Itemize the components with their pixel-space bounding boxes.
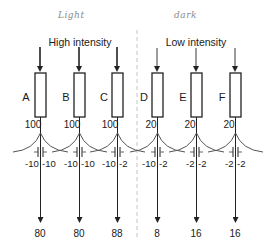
input-value-f: 20 [223, 119, 234, 130]
coupling-right-f: -2 [237, 158, 245, 169]
receptor-box-f [230, 73, 241, 117]
receptor-box-a [35, 73, 46, 117]
cell-label-a: A [22, 91, 29, 103]
cell-label-b: B [62, 91, 69, 103]
coupling-left-e: -2 [186, 158, 194, 169]
output-value-f: 16 [229, 228, 240, 239]
handwritten-light-label: Light [58, 10, 85, 20]
low-intensity-title: Low intensity [166, 36, 227, 48]
cell-label-e: E [179, 91, 186, 103]
coupling-left-a: -10 [25, 158, 39, 169]
high-intensity-title: High intensity [48, 36, 111, 48]
output-value-c: 88 [111, 228, 122, 239]
coupling-right-d: -2 [159, 158, 167, 169]
output-value-e: 16 [190, 228, 201, 239]
output-value-d: 8 [154, 228, 160, 239]
coupling-right-a: -10 [42, 158, 56, 169]
handwritten-dark-label: dark [174, 10, 197, 20]
coupling-left-d: -10 [142, 158, 156, 169]
receptor-box-c [112, 73, 123, 117]
coupling-left-f: -2 [225, 158, 233, 169]
inhibition-curve-right-f [236, 133, 264, 152]
input-value-a: 100 [25, 119, 42, 130]
receptor-box-b [74, 73, 85, 117]
cell-label-c: C [100, 91, 108, 103]
input-value-b: 100 [64, 119, 81, 130]
output-value-a: 80 [34, 228, 45, 239]
inhibition-curve-left-a [13, 133, 41, 152]
cell-label-f: F [219, 91, 226, 103]
coupling-right-c: -2 [119, 158, 127, 169]
coupling-right-b: -10 [81, 158, 95, 169]
cell-label-d: D [140, 91, 148, 103]
output-value-b: 80 [73, 228, 84, 239]
receptor-box-e [191, 73, 202, 117]
input-value-c: 100 [102, 119, 119, 130]
receptor-box-d [152, 73, 163, 117]
input-value-e: 20 [184, 119, 195, 130]
coupling-left-c: -10 [102, 158, 116, 169]
coupling-left-b: -10 [64, 158, 78, 169]
coupling-right-e: -2 [198, 158, 206, 169]
input-value-d: 20 [145, 119, 156, 130]
lateral-inhibition-diagram: Light dark High intensity Low intensity … [0, 0, 274, 242]
